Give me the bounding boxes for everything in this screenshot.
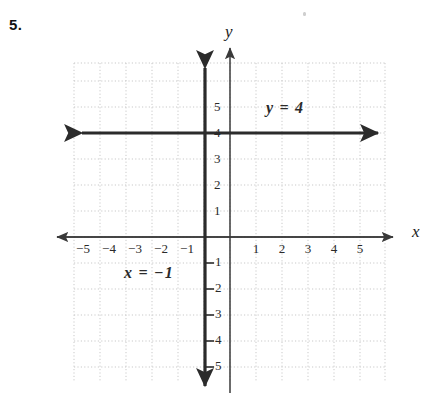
- y-tick-label-pos-2: 3: [214, 151, 228, 167]
- y-tick-label-pos-3: 2: [214, 177, 228, 193]
- x-tick-label-pos-3: 4: [327, 241, 341, 257]
- x-tick-label-neg-1: −4: [98, 241, 120, 257]
- x-tick-label-neg-3: −2: [150, 241, 172, 257]
- graph-figure: 5.: [0, 0, 437, 393]
- y-axis-label: y: [225, 22, 233, 42]
- x-tick-label-pos-0: 1: [249, 241, 263, 257]
- y-tick-label-neg-0: 1: [215, 254, 229, 270]
- x-tick-label-neg-0: −5: [72, 241, 94, 257]
- x-tick-label-pos-4: 5: [353, 241, 367, 257]
- x-tick-label-pos-1: 2: [275, 241, 289, 257]
- y-tick-label-pos-0: 5: [214, 99, 228, 115]
- equation-label-y-equals-4: y = 4: [266, 99, 304, 117]
- y-tick-label-pos-4: 1: [214, 203, 228, 219]
- y-tick-label-neg-3: 4: [215, 332, 229, 348]
- x-tick-label-pos-2: 3: [301, 241, 315, 257]
- x-axis-label: x: [412, 222, 420, 242]
- equation-label-x-equals-minus-1: x = −1: [124, 264, 174, 282]
- y-tick-label-neg-2: 3: [215, 306, 229, 322]
- x-tick-label-neg-4: −1: [176, 241, 198, 257]
- y-tick-label-neg-4: 5: [215, 358, 229, 374]
- y-tick-label-neg-1: 2: [215, 280, 229, 296]
- x-tick-label-neg-2: −3: [124, 241, 146, 257]
- y-tick-label-pos-1: 4: [214, 125, 228, 141]
